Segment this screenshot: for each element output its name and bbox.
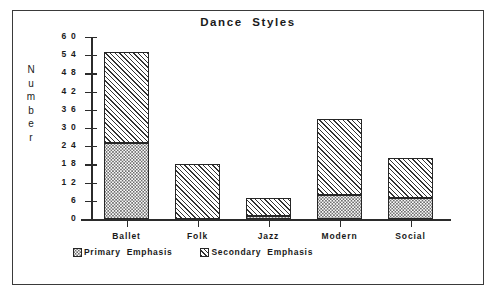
x-axis-tick: [411, 219, 412, 227]
y-axis-tick: 1 8: [85, 164, 97, 165]
bar-segment-secondary: [317, 119, 361, 195]
bar-folk: [175, 37, 219, 219]
bar-segment-primary: [104, 143, 148, 219]
y-axis-tick: 3 6: [85, 110, 97, 111]
bar-modern: [317, 37, 361, 219]
bar-social: [388, 37, 432, 219]
plot-area: 6 05 44 84 23 63 02 41 81 260 BalletFolk…: [91, 37, 446, 219]
chart-frame: Dance Styles N u m b e r 6 05 44 84 23 6…: [12, 10, 484, 285]
x-axis-line: [81, 219, 451, 221]
bar-jazz: [246, 37, 290, 219]
x-axis-label-ballet: Ballet: [112, 231, 141, 241]
y-axis-tick-label: 2 4: [62, 140, 77, 150]
legend-swatch-primary-icon: [73, 248, 82, 257]
x-axis-label-modern: Modern: [321, 231, 357, 241]
y-axis-tick-label: 1 8: [62, 158, 77, 168]
y-axis-tick: 4 2: [85, 92, 97, 93]
bar-segment-secondary: [388, 158, 432, 197]
y-axis-tick: 6 0: [85, 37, 97, 38]
legend-label-primary: Primary Emphasis: [84, 247, 172, 257]
y-axis-tick-label: 4 8: [62, 67, 77, 77]
y-axis-tick-label: 3 0: [62, 122, 77, 132]
bar-segment-secondary: [104, 52, 148, 143]
bar-segment-secondary: [175, 164, 219, 219]
y-axis-tick-label: 3 6: [62, 104, 77, 114]
y-axis-tick-label: 4 2: [62, 86, 77, 96]
y-axis-tick: 0: [85, 219, 97, 220]
bar-segment-secondary: [246, 198, 290, 216]
y-axis-tick: 6: [85, 201, 97, 202]
y-axis-tick-label: 1 2: [62, 177, 77, 187]
x-axis-tick: [340, 219, 341, 227]
y-axis-tick-label: 5 4: [62, 49, 77, 59]
y-axis-tick-label: 0: [71, 213, 77, 223]
y-axis-title-letter: e: [23, 117, 39, 131]
bar-ballet: [104, 37, 148, 219]
y-axis-title-letter: N: [23, 63, 39, 77]
legend: Primary Emphasis Secondary Emphasis: [73, 247, 313, 257]
legend-item-primary: Primary Emphasis: [73, 247, 172, 257]
legend-item-secondary: Secondary Emphasis: [200, 247, 313, 257]
y-axis-title-letter: b: [23, 104, 39, 118]
x-axis-label-jazz: Jazz: [258, 231, 280, 241]
y-axis-title: N u m b e r: [23, 63, 39, 144]
bar-segment-primary: [388, 198, 432, 219]
y-axis-tick: 4 8: [85, 73, 97, 74]
legend-swatch-secondary-icon: [200, 248, 209, 257]
y-axis-tick: 5 4: [85, 55, 97, 56]
bar-segment-primary: [317, 195, 361, 219]
y-axis-title-letter: r: [23, 131, 39, 145]
y-axis-tick: 2 4: [85, 146, 97, 147]
x-axis-tick: [198, 219, 199, 227]
x-axis-label-social: Social: [395, 231, 425, 241]
y-axis-tick: 1 2: [85, 183, 97, 184]
x-axis-tick: [269, 219, 270, 227]
x-axis-label-folk: Folk: [187, 231, 208, 241]
legend-label-secondary: Secondary Emphasis: [211, 247, 313, 257]
y-axis-tick: 3 0: [85, 128, 97, 129]
y-axis-tick-label: 6 0: [62, 31, 77, 41]
y-axis-tick-label: 6: [71, 195, 77, 205]
x-axis-tick: [127, 219, 128, 227]
chart-title: Dance Styles: [13, 16, 483, 28]
y-axis-title-letter: m: [23, 90, 39, 104]
y-axis-title-letter: u: [23, 77, 39, 91]
